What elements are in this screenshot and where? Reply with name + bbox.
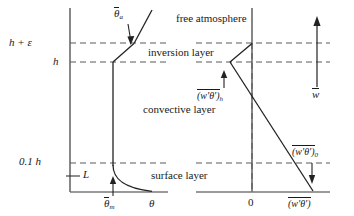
theta-profile-free-atmosphere	[134, 10, 152, 44]
zero-tick-label: 0	[248, 197, 254, 208]
right-panel-x-axis-label: (w'θ')	[288, 199, 311, 209]
level-label-0.1h: 0.1 h	[19, 156, 41, 167]
flux-profile-entrainment-segment	[230, 44, 252, 63]
entrainment-velocity-arrowhead	[313, 16, 320, 26]
layer-label-inversion-layer: inversion layer	[148, 47, 214, 58]
level-label-h-plus-eps: h + ε	[9, 37, 32, 48]
layer-label-convective-layer: convective layer	[143, 104, 215, 115]
obukhov-length-label: L	[83, 169, 89, 180]
entrainment-velocity-label: w	[312, 89, 319, 100]
theta-profile-inversion	[113, 44, 134, 63]
layer-label-surface-layer: surface layer	[151, 170, 208, 181]
left-panel-x-axis-label: θ	[149, 198, 154, 209]
theta-mixed-label: θm	[104, 198, 114, 211]
level-label-h: h	[53, 56, 59, 67]
flux-at-h-label: (w'θ')h	[197, 91, 223, 103]
layer-label-free-atmosphere: free atmosphere	[176, 13, 247, 24]
flux-profile-linear-segment	[230, 62, 313, 191]
surface-flux-label: (w'θ')0	[292, 147, 318, 159]
surface-flux-pointer-arrowhead	[309, 175, 315, 184]
theta-profile-surface-curve	[113, 165, 152, 191]
theta-aloft-label: θa	[114, 8, 123, 21]
flux-at-h-pointer-arrowhead	[221, 70, 227, 78]
theta-m-pointer-arrowhead	[110, 176, 116, 184]
